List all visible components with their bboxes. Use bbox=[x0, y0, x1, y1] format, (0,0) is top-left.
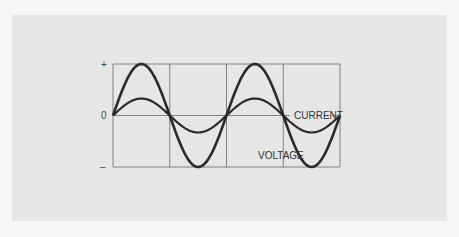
waveform-diagram: + 0 – CURRENT VOLTAGE bbox=[0, 0, 459, 237]
current-label: CURRENT bbox=[294, 110, 343, 121]
y-label-zero: 0 bbox=[101, 110, 107, 121]
y-label-minus: – bbox=[100, 161, 106, 172]
voltage-label: VOLTAGE bbox=[258, 150, 304, 161]
y-label-plus: + bbox=[101, 59, 107, 70]
